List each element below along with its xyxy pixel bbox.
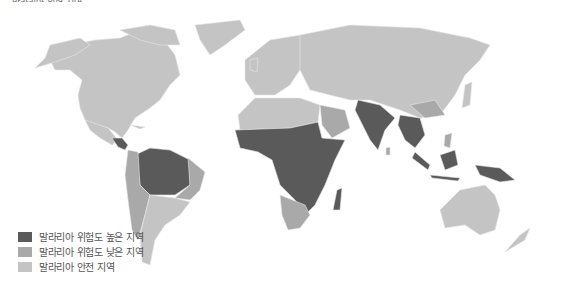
map-legend: 말라리아 위험도 높은 지역 말라리아 위험도 낮은 지역 말라리아 안전 지역: [18, 229, 143, 274]
india: [355, 100, 395, 150]
australia: [440, 185, 500, 235]
borneo: [440, 150, 458, 170]
new-zealand: [505, 228, 530, 252]
java: [430, 175, 460, 181]
sumatra: [412, 152, 430, 170]
southeast-asia: [398, 115, 425, 148]
swatch-low-risk: [18, 247, 32, 257]
swatch-safe: [18, 262, 32, 272]
madagascar: [333, 188, 342, 210]
legend-label: 말라리아 위험도 낮은 지역: [39, 244, 143, 259]
arabia: [320, 105, 350, 138]
legend-item-low-risk: 말라리아 위험도 낮은 지역: [18, 244, 143, 259]
south-america-south: [140, 195, 190, 265]
legend-item-high-risk: 말라리아 위험도 높은 지역: [18, 229, 143, 244]
legend-label: 말라리아 안전 지역: [39, 259, 114, 274]
swatch-high-risk: [18, 232, 32, 242]
legend-label: 말라리아 위험도 높은 지역: [39, 229, 143, 244]
legend-item-safe: 말라리아 안전 지역: [18, 259, 143, 274]
asia: [300, 25, 490, 118]
greenland: [195, 20, 245, 55]
papua: [475, 165, 515, 182]
central-america: [112, 138, 128, 150]
